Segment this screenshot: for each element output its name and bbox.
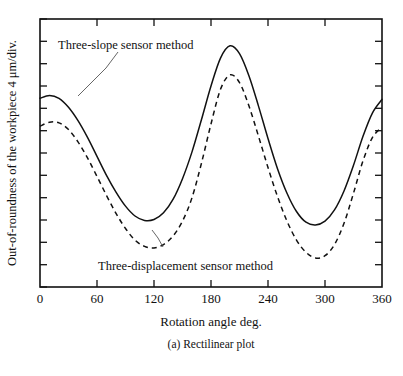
figure-container: Out-of-roundness of the workpiece 4 μm/d… [0,0,403,376]
x-tick-label-300: 300 [315,291,335,306]
y-axis-ticks-right [375,41,382,264]
series-line-three-slope [40,46,382,225]
series-line-three-displacement [40,75,382,259]
leader-line-three-displacement [152,230,163,247]
x-tick-label-0: 0 [37,291,44,306]
x-tick-label-360: 360 [372,291,392,306]
y-axis-ticks [40,19,47,287]
x-tick-label-240: 240 [258,291,278,306]
leader-line-three-slope [78,52,118,96]
x-tick-label-120: 120 [144,291,164,306]
x-tick-label-180: 180 [201,291,221,306]
x-axis-title: Rotation angle deg. [160,314,261,329]
figure-caption: (a) Rectilinear plot [168,338,256,351]
x-axis-ticks [97,280,325,287]
x-tick-label-60: 60 [91,291,104,306]
y-axis-title: Out-of-roundness of the workpiece 4 μm/d… [5,40,19,266]
annotation-three-displacement: Three-displacement sensor method [98,259,274,273]
x-axis-ticks-top [97,19,325,26]
annotation-three-slope: Three-slope sensor method [58,38,194,52]
rectilinear-plot-svg: Out-of-roundness of the workpiece 4 μm/d… [0,0,403,376]
plot-frame [40,19,382,287]
